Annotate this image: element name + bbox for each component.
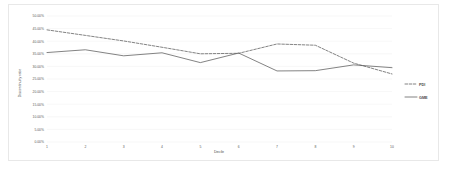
data-series-group — [47, 30, 392, 74]
y-axis-title: Discontinuity ratio — [18, 69, 22, 97]
legend-label-gme[interactable]: GME — [419, 96, 428, 100]
y-axis-tick-label: 20.00% — [33, 90, 45, 94]
y-axis-tick-label: 40.00% — [33, 40, 45, 44]
gridline-group — [47, 16, 392, 142]
y-axis-tick-label: 25.00% — [33, 77, 45, 81]
x-axis-tick-label: 7 — [276, 145, 278, 149]
x-axis-tick-label: 8 — [314, 145, 316, 149]
x-axis-tick-label: 4 — [161, 145, 163, 149]
y-axis-tick-label: 30.00% — [33, 65, 45, 69]
x-axis-tick-label: 1 — [46, 145, 48, 149]
x-axis-tick-label: 6 — [238, 145, 240, 149]
x-axis-tick-label: 5 — [199, 145, 201, 149]
x-axis-tick-labels: 12345678910 — [46, 145, 394, 149]
chart-container: 50.00%45.00%40.00%35.00%30.00%25.00%20.0… — [8, 4, 439, 161]
y-axis-tick-label: 5.00% — [34, 128, 44, 132]
y-axis-tick-label: 50.00% — [33, 14, 45, 18]
x-axis-tick-label: 9 — [353, 145, 355, 149]
y-axis-tick-label: 10.00% — [33, 115, 45, 119]
legend-label-pdi[interactable]: PDI — [419, 83, 425, 87]
x-axis-tick-label: 3 — [123, 145, 125, 149]
y-axis-tick-label: 35.00% — [33, 52, 45, 56]
x-axis-title: Decile — [214, 150, 224, 154]
chart-legend: PDIGME — [405, 83, 428, 100]
y-axis-tick-label: 0.00% — [34, 140, 44, 144]
x-axis-tick-label: 10 — [390, 145, 394, 149]
line-chart-plot: 50.00%45.00%40.00%35.00%30.00%25.00%20.0… — [9, 5, 440, 162]
y-axis-tick-label: 15.00% — [33, 103, 45, 107]
y-axis-tick-labels: 50.00%45.00%40.00%35.00%30.00%25.00%20.0… — [33, 14, 45, 144]
series-line-gme — [47, 50, 392, 71]
x-axis-tick-label: 2 — [84, 145, 86, 149]
y-axis-tick-label: 45.00% — [33, 27, 45, 31]
